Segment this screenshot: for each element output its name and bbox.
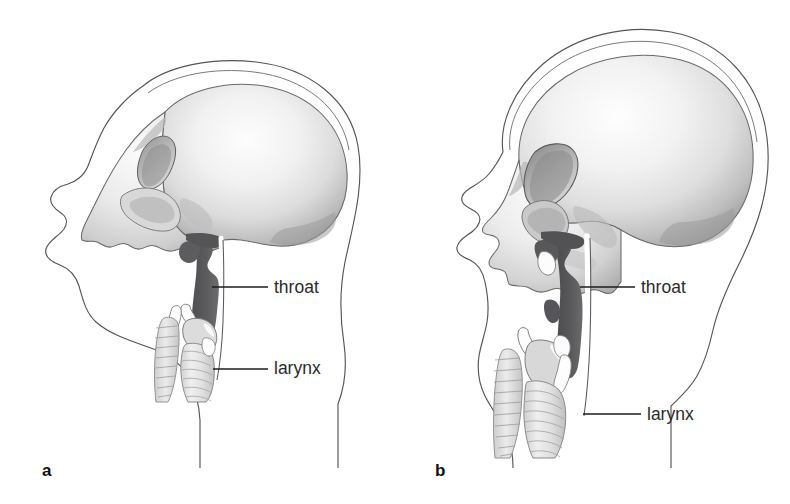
figure-root: throat larynx a (0, 0, 790, 504)
panel-b-adult: throat larynx b (395, 0, 790, 504)
annotation-label-throat: throat (641, 279, 686, 297)
infant-cervical-spine (155, 317, 180, 402)
panel-letter-b: b (435, 462, 445, 479)
panel-letter-a: a (42, 462, 51, 479)
annotation-label-larynx: larynx (647, 406, 694, 424)
infant-epiglottis (202, 338, 215, 356)
adult-pharynx-lower-lobe (544, 299, 560, 323)
adult-skull-illustration (395, 0, 790, 504)
panel-a-infant: throat larynx a (0, 0, 395, 504)
infant-skull-illustration (0, 0, 395, 504)
annotation-label-throat: throat (274, 279, 319, 297)
annotation-label-larynx: larynx (274, 360, 321, 378)
